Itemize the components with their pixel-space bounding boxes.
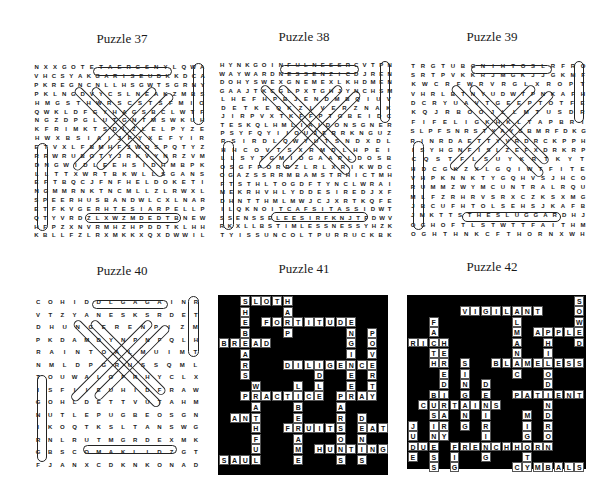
- crossword-cell: R: [408, 338, 418, 348]
- grid-letter: W: [243, 71, 251, 77]
- crossword-cell: N: [543, 442, 553, 452]
- grid-letter: K: [120, 232, 129, 238]
- grid-letter: R: [428, 91, 438, 97]
- grid-letter: D: [375, 164, 384, 170]
- grid-letter: N: [448, 175, 458, 181]
- grid-letter: Z: [152, 188, 161, 194]
- grid-letter: A: [178, 387, 190, 393]
- grid-letter: R: [155, 206, 164, 212]
- grid-letter: S: [444, 128, 453, 134]
- grid-letter: W: [61, 162, 71, 168]
- grid-letter: V: [58, 215, 67, 221]
- grid-letter: Y: [68, 312, 80, 318]
- grid-letter: J: [368, 189, 377, 195]
- grid-letter: L: [142, 179, 151, 185]
- grid-letter: K: [368, 232, 377, 238]
- grid-letter: N: [341, 122, 350, 128]
- grid-row: FJANXCDKNKONAD: [32, 459, 202, 472]
- grid-letter: K: [129, 312, 141, 318]
- grid-letter: B: [384, 155, 394, 161]
- grid-letter: N: [166, 462, 178, 468]
- grid-letter: M: [285, 172, 293, 178]
- grid-letter: H: [235, 79, 243, 85]
- grid-letter: R: [369, 71, 377, 77]
- answer-loop: [37, 143, 48, 232]
- grid-letter: P: [560, 138, 569, 144]
- crossword-cell: M: [512, 327, 522, 337]
- grid-letter: T: [274, 223, 282, 229]
- grid-letter: S: [344, 206, 352, 212]
- crossword-cell: G: [460, 390, 470, 400]
- grid-letter: N: [546, 231, 557, 237]
- grid-row: FTSTHLTOGDFTYNCLWRAI: [218, 180, 394, 188]
- grid-letter: D: [155, 224, 164, 230]
- grid-letter: S: [352, 206, 360, 212]
- grid-letter: H: [198, 224, 207, 230]
- grid-letter: O: [280, 181, 289, 187]
- grid-letter: D: [81, 299, 93, 305]
- grid-letter: Y: [67, 73, 76, 79]
- grid-letter: L: [161, 188, 170, 194]
- puzzle-40-title: Puzzle 40: [42, 263, 202, 279]
- grid-letter: Y: [178, 126, 188, 132]
- grid-letter: H: [386, 172, 394, 178]
- crossword-cell: T: [533, 390, 543, 400]
- grid-row: ETFKVGERHTESIARPELLP: [32, 205, 207, 214]
- grid-letter: X: [163, 197, 172, 203]
- grid-letter: B: [578, 203, 588, 209]
- grid-letter: I: [198, 179, 207, 185]
- grid-letter: T: [310, 88, 318, 94]
- crossword-cell: E: [408, 452, 418, 462]
- grid-letter: K: [408, 81, 419, 87]
- grid-letter: K: [236, 189, 245, 195]
- crossword-cell: R: [240, 360, 250, 370]
- grid-letter: P: [32, 337, 44, 343]
- grid-letter: G: [117, 437, 129, 443]
- grid-letter: Q: [235, 206, 243, 212]
- grid-letter: N: [236, 198, 245, 204]
- crossword-cell: B: [543, 462, 553, 472]
- grid-letter: R: [67, 197, 76, 203]
- grid-letter: I: [282, 223, 290, 229]
- crossword-cell: C: [357, 360, 367, 370]
- grid-letter: C: [85, 82, 94, 88]
- grid-letter: T: [446, 212, 455, 218]
- grid-letter: K: [408, 109, 419, 115]
- grid-letter: K: [58, 206, 67, 212]
- grid-letter: I: [352, 172, 360, 178]
- grid-letter: H: [518, 203, 528, 209]
- grid-letter: I: [228, 113, 238, 119]
- grid-letter: N: [242, 215, 250, 221]
- grid-letter: E: [153, 437, 165, 443]
- grid-letter: T: [478, 175, 488, 181]
- crossword-cell: H: [543, 338, 553, 348]
- crossword-cell: A: [230, 413, 240, 423]
- grid-letter: W: [377, 206, 385, 212]
- grid-letter: H: [253, 181, 262, 187]
- grid-letter: Z: [385, 130, 394, 136]
- grid-letter: A: [538, 184, 548, 190]
- grid-letter: I: [364, 113, 374, 119]
- crossword-cell: I: [429, 421, 439, 431]
- grid-letter: L: [146, 197, 155, 203]
- grid-letter: V: [85, 224, 94, 230]
- crossword-cell: E: [367, 360, 377, 370]
- grid-letter: H: [56, 399, 68, 405]
- crossword-cell: I: [357, 444, 367, 454]
- grid-letter: A: [76, 73, 85, 79]
- grid-letter: H: [117, 387, 129, 393]
- grid-letter: O: [153, 412, 165, 418]
- grid-letter: A: [56, 462, 68, 468]
- grid-letter: Q: [503, 166, 514, 172]
- grid-letter: H: [119, 162, 129, 168]
- grid-letter: G: [509, 81, 520, 87]
- crossword-cell: O: [574, 306, 584, 316]
- grid-letter: K: [468, 175, 478, 181]
- crossword-cell: H: [314, 444, 324, 454]
- grid-letter: T: [117, 399, 129, 405]
- grid-letter: T: [488, 222, 498, 228]
- grid-letter: G: [498, 175, 508, 181]
- grid-letter: S: [128, 206, 137, 212]
- grid-letter: E: [155, 135, 165, 141]
- grid-letter: S: [105, 424, 117, 430]
